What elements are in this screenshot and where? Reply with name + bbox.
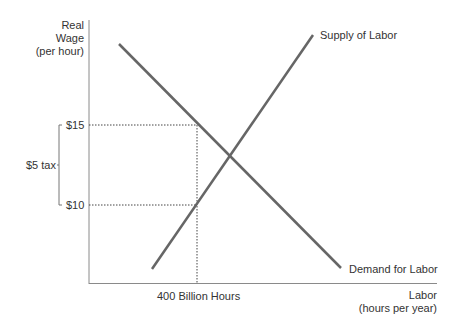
y-axis-label: Real Wage (per hour) — [36, 19, 84, 58]
tax-bracket — [59, 125, 62, 205]
demand-label: Demand for Labor — [349, 263, 438, 276]
tick-label-15: $15 — [66, 119, 84, 132]
tax-label: $5 tax — [26, 159, 56, 172]
x-axis-label: Labor (hours per year) — [359, 289, 437, 315]
tick-label-10: $10 — [66, 199, 84, 212]
supply-label: Supply of Labor — [320, 29, 397, 42]
supply-curve — [152, 35, 313, 269]
quantity-tick-label: 400 Billion Hours — [157, 290, 240, 303]
